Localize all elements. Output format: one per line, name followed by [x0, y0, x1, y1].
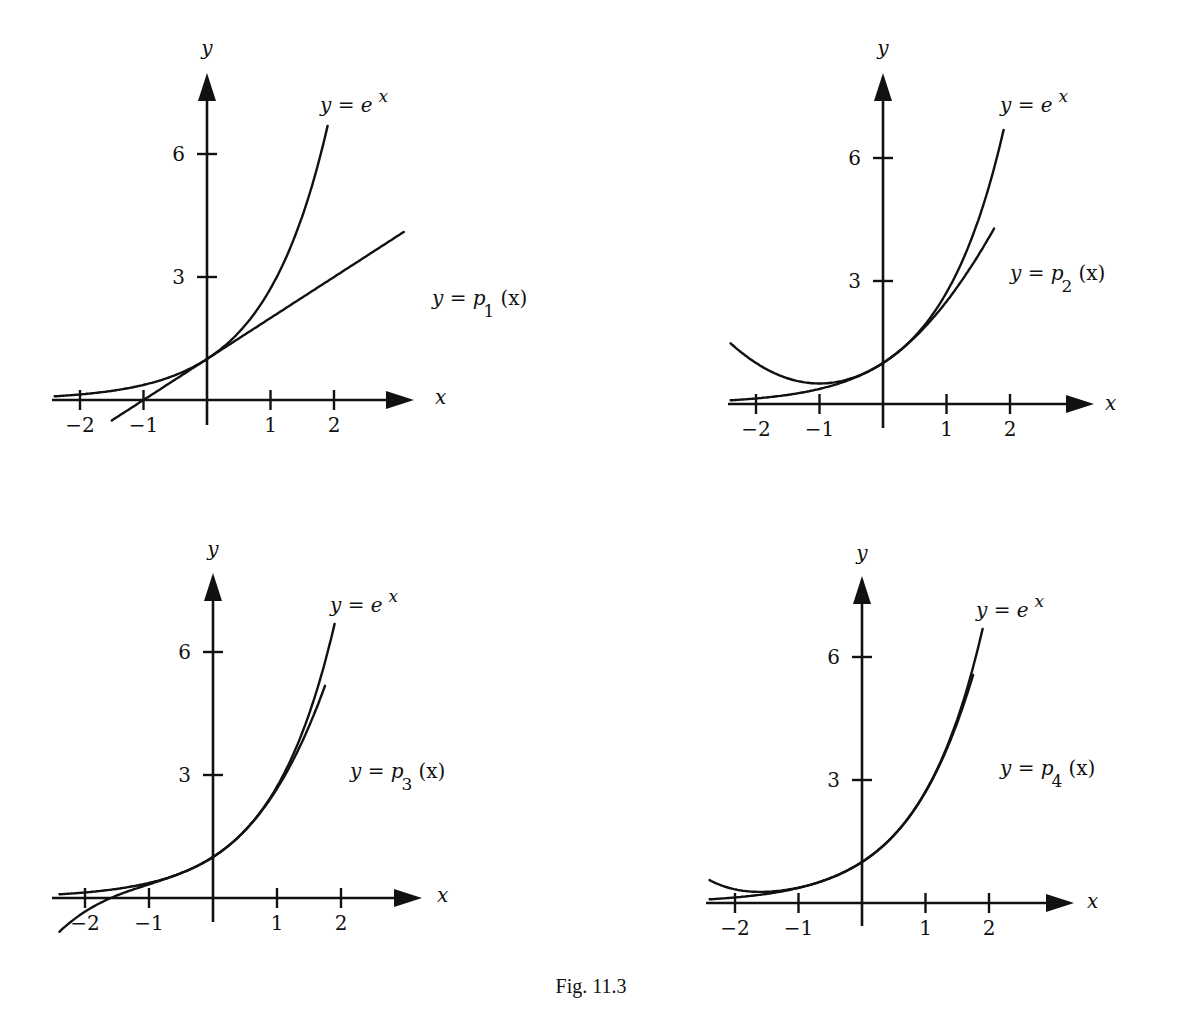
polynomial-curve-label: y = p2(x) — [1009, 261, 1105, 296]
y-tick-label: 6 — [172, 142, 185, 166]
x-axis-label: x — [1087, 889, 1098, 913]
x-tick-label: 2 — [335, 911, 348, 935]
x-tick-label: 2 — [328, 413, 341, 437]
polynomial-curve-label: y = p1(x) — [431, 286, 527, 321]
x-axis-arrow-icon — [386, 391, 414, 409]
chart-panel-2: −2−11236yxy = exy = p2(x) — [728, 36, 1116, 441]
x-tick-label: 1 — [919, 916, 932, 940]
x-axis-label: x — [437, 883, 448, 907]
y-tick-label: 6 — [178, 640, 191, 664]
x-axis-label: x — [435, 385, 446, 409]
y-axis-label: y — [206, 537, 219, 561]
x-tick-label: −2 — [70, 911, 99, 935]
y-tick-label: 3 — [827, 768, 840, 792]
exp-curve-label: y = ex — [329, 586, 399, 617]
taylor-polynomial-curve — [112, 232, 404, 421]
y-axis-label: y — [855, 541, 868, 565]
y-tick-label: 3 — [178, 763, 191, 787]
polynomial-curve-label: y = p3(x) — [349, 759, 445, 794]
exp-curve-label: y = ex — [999, 86, 1069, 117]
y-tick-label: 6 — [848, 146, 861, 170]
chart-panel-4: −2−11236yxy = exy = p4(x) — [706, 541, 1098, 940]
x-tick-label: 2 — [1004, 417, 1017, 441]
chart-panel-1: −2−11236yxy = exy = p1(x) — [52, 36, 527, 437]
x-tick-label: −1 — [784, 916, 813, 940]
exp-curve-label: y = ex — [319, 86, 389, 117]
x-axis-arrow-icon — [1046, 894, 1074, 912]
y-axis-arrow-icon — [204, 573, 222, 601]
x-tick-label: 2 — [983, 916, 996, 940]
polynomial-curve-label: y = p4(x) — [999, 756, 1095, 791]
exp-curve-label: y = ex — [975, 591, 1045, 622]
y-tick-label: 6 — [827, 645, 840, 669]
x-tick-label: −2 — [741, 417, 770, 441]
taylor-polynomial-curve — [59, 686, 325, 932]
exp-curve — [710, 629, 983, 899]
x-tick-label: −2 — [65, 413, 94, 437]
x-tick-label: −1 — [129, 413, 158, 437]
y-axis-arrow-icon — [874, 73, 892, 101]
x-tick-label: −1 — [805, 417, 834, 441]
exp-curve — [731, 130, 1004, 400]
exp-curve — [55, 126, 328, 396]
x-tick-label: 1 — [940, 417, 953, 441]
x-tick-label: 1 — [271, 911, 284, 935]
x-axis-label: x — [1105, 391, 1116, 415]
taylor-polynomial-curve — [731, 229, 995, 384]
y-axis-label: y — [876, 36, 889, 60]
x-axis-arrow-icon — [1066, 395, 1094, 413]
x-tick-label: 1 — [264, 413, 277, 437]
x-tick-label: −1 — [134, 911, 163, 935]
x-axis-arrow-icon — [394, 889, 422, 907]
taylor-polynomial-curve — [710, 675, 974, 892]
figure-caption: Fig. 11.3 — [0, 975, 1182, 998]
y-axis-arrow-icon — [853, 576, 871, 604]
y-tick-label: 3 — [848, 269, 861, 293]
chart-panel-3: −2−11236yxy = exy = p3(x) — [52, 537, 448, 935]
x-tick-label: −2 — [720, 916, 749, 940]
y-tick-label: 3 — [172, 265, 185, 289]
y-axis-label: y — [200, 36, 213, 60]
y-axis-arrow-icon — [198, 73, 216, 101]
figure-canvas: −2−11236yxy = exy = p1(x)−2−11236yxy = e… — [0, 0, 1182, 1013]
